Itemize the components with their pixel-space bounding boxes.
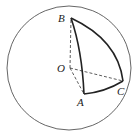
radius-OC: [70, 68, 123, 81]
sphere-outline: [7, 6, 131, 130]
radius-OB: [70, 18, 71, 68]
sphere-diagram: B O A C: [0, 0, 140, 135]
label-O: O: [57, 62, 65, 74]
label-B: B: [58, 12, 65, 24]
label-C: C: [117, 85, 125, 97]
label-A: A: [76, 96, 84, 108]
